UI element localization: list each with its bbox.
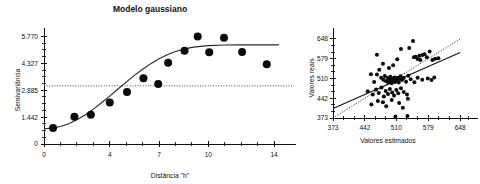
scatter-point bbox=[426, 77, 430, 81]
scatter-point bbox=[375, 53, 379, 57]
scatter-point bbox=[406, 74, 410, 78]
scatter-point bbox=[369, 102, 373, 106]
semivariance-point bbox=[70, 113, 78, 121]
scatter-point bbox=[436, 56, 440, 60]
scatter-point bbox=[411, 39, 415, 43]
scatter-point bbox=[399, 86, 403, 90]
semivariance-point bbox=[139, 74, 147, 82]
x-axis-tick-label: 10 bbox=[205, 151, 213, 158]
scatter-point bbox=[393, 115, 397, 119]
semivariogram-x-axis-title: Distância "h" bbox=[151, 172, 190, 179]
x-axis-tick-label: 648 bbox=[455, 124, 466, 131]
semivariance-point bbox=[220, 34, 228, 42]
scatter-point bbox=[395, 57, 399, 61]
scatter-point bbox=[407, 46, 411, 50]
scatter-point bbox=[412, 80, 416, 84]
scatter-point bbox=[392, 94, 396, 98]
scatter-point bbox=[401, 106, 405, 110]
y-axis-tick-label: 442 bbox=[317, 95, 328, 102]
semivariogram-y-axis-title: Semivariância bbox=[14, 68, 21, 111]
scatter-y-axis-title: Valores reais bbox=[308, 58, 315, 98]
predicted-vs-observed-svg: 373442510579648373442510579648 Valores e… bbox=[300, 0, 480, 184]
y-axis-tick-label: 648 bbox=[317, 35, 328, 42]
predicted-vs-observed-panel: 373442510579648373442510579648 Valores e… bbox=[300, 0, 480, 184]
x-axis-tick-label: 0 bbox=[42, 151, 46, 158]
semivariance-point bbox=[181, 47, 189, 55]
x-axis-tick-label: 4 bbox=[108, 151, 112, 158]
scatter-point bbox=[376, 99, 380, 103]
scatter-point bbox=[432, 75, 436, 79]
semivariogram-panel: Modelo gaussiano 01.4422.8854.3275.77004… bbox=[0, 0, 300, 184]
scatter-point bbox=[405, 92, 409, 96]
scatter-point bbox=[387, 66, 391, 70]
semivariance-point bbox=[194, 32, 202, 40]
semivariance-point bbox=[106, 99, 114, 107]
scatter-point bbox=[428, 50, 432, 54]
scatter-point bbox=[388, 87, 392, 91]
y-axis-tick-label: 0 bbox=[34, 140, 38, 147]
scatter-point bbox=[375, 73, 379, 77]
scatter-point bbox=[416, 76, 420, 80]
y-axis-tick-label: 1.442 bbox=[21, 114, 38, 121]
scatter-point bbox=[399, 47, 403, 51]
scatter-point bbox=[409, 77, 413, 81]
y-axis-tick-label: 4.327 bbox=[21, 60, 38, 67]
scatter-point bbox=[377, 91, 381, 95]
scatter-point bbox=[402, 76, 406, 80]
y-axis-tick-label: 579 bbox=[317, 55, 328, 62]
figure-root: Modelo gaussiano 01.4422.8854.3275.77004… bbox=[0, 0, 480, 184]
scatter-point bbox=[371, 92, 375, 96]
semivariance-point bbox=[49, 124, 57, 132]
y-axis-tick-label: 510 bbox=[317, 75, 328, 82]
x-axis-tick-label: 510 bbox=[391, 124, 402, 131]
y-axis-tick-label: 373 bbox=[317, 114, 328, 121]
semivariogram-title: Modelo gaussiano bbox=[113, 4, 187, 14]
scatter-point bbox=[405, 114, 409, 118]
x-axis-tick-label: 442 bbox=[359, 124, 370, 131]
semivariogram-axes bbox=[41, 28, 296, 147]
scatter-data-points bbox=[366, 39, 441, 119]
scatter-point bbox=[425, 55, 429, 59]
x-axis-tick-label: 373 bbox=[327, 124, 338, 131]
semivariance-point bbox=[238, 48, 246, 56]
semivariance-point bbox=[205, 48, 213, 56]
scatter-point bbox=[381, 100, 385, 104]
scatter-point bbox=[420, 78, 424, 82]
semivariance-point bbox=[263, 60, 271, 68]
scatter-point bbox=[386, 92, 390, 96]
scatter-point bbox=[390, 98, 394, 102]
semivariance-point bbox=[123, 88, 131, 96]
scatter-point bbox=[418, 58, 422, 62]
scatter-point bbox=[397, 101, 401, 105]
scatter-point bbox=[396, 91, 400, 95]
scatter-point bbox=[377, 68, 381, 72]
scatter-point bbox=[382, 94, 386, 98]
scatter-point bbox=[384, 104, 388, 108]
semivariance-point bbox=[164, 59, 172, 67]
gaussian-model-curve bbox=[44, 45, 279, 129]
scatter-x-axis-title: Valores estimados bbox=[360, 137, 416, 144]
scatter-point bbox=[404, 80, 408, 84]
y-axis-tick-label: 2.885 bbox=[21, 87, 38, 94]
semivariance-point bbox=[154, 80, 162, 88]
scatter-point bbox=[406, 97, 410, 101]
x-axis-tick-label: 7 bbox=[157, 151, 161, 158]
x-axis-tick-label: 14 bbox=[270, 151, 278, 158]
scatter-point bbox=[380, 86, 384, 90]
scatter-point bbox=[391, 63, 395, 67]
y-axis-tick-label: 5.770 bbox=[21, 33, 38, 40]
scatter-point bbox=[397, 81, 401, 85]
semivariogram-svg: Modelo gaussiano 01.4422.8854.3275.77004… bbox=[0, 0, 300, 184]
scatter-point bbox=[381, 62, 385, 66]
x-axis-tick-label: 579 bbox=[423, 124, 434, 131]
semivariance-point bbox=[87, 111, 95, 119]
scatter-point bbox=[374, 88, 378, 92]
gaussian-fit-path bbox=[44, 45, 279, 129]
scatter-point bbox=[366, 89, 370, 93]
scatter-point bbox=[402, 90, 406, 94]
scatter-point bbox=[369, 72, 373, 76]
scatter-point bbox=[372, 80, 376, 84]
